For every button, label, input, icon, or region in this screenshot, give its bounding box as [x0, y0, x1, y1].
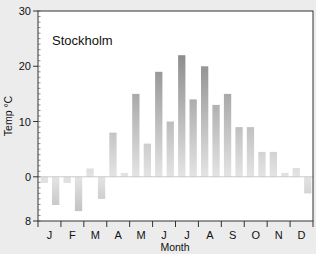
x-tick-label: M	[137, 229, 146, 241]
annotation-label: Stockholm	[52, 33, 113, 48]
bar	[293, 168, 300, 177]
bar	[212, 105, 219, 177]
bar	[86, 169, 93, 177]
x-tick-label: J	[161, 229, 167, 241]
x-tick-label: J	[184, 229, 190, 241]
bar	[281, 173, 288, 177]
bar	[52, 177, 59, 205]
bar	[109, 133, 116, 177]
y-tick-label: 10	[19, 116, 31, 128]
bar	[201, 66, 208, 177]
x-tick-label: F	[69, 229, 76, 241]
x-axis: JFMAMJJASOND	[38, 221, 313, 241]
bar	[258, 152, 265, 177]
y-tick-label: 0	[25, 171, 31, 183]
y-tick-label: 20	[19, 60, 31, 72]
x-tick-label: M	[91, 229, 100, 241]
x-tick-label: N	[275, 229, 283, 241]
bar	[121, 173, 128, 177]
bar	[167, 122, 174, 177]
x-tick-label: O	[251, 229, 260, 241]
x-tick-label: J	[47, 229, 53, 241]
bar	[224, 94, 231, 177]
chart: 30201008 JFMAMJJASOND Stockholm Month Te…	[0, 0, 316, 254]
y-axis: 30201008	[19, 5, 41, 227]
bar	[247, 127, 254, 177]
bar	[235, 127, 242, 177]
x-tick-label: A	[115, 229, 123, 241]
bar	[41, 177, 48, 183]
x-axis-title: Month	[160, 241, 189, 253]
y-tick-label: 8	[25, 215, 31, 227]
bar	[64, 177, 71, 183]
bar	[132, 94, 139, 177]
y-axis-title: Temp °C	[2, 95, 14, 136]
bar	[178, 55, 185, 177]
bar	[75, 177, 82, 211]
bar	[144, 144, 151, 177]
bar	[155, 72, 162, 177]
x-tick-label: S	[229, 229, 236, 241]
x-tick-label: A	[206, 229, 214, 241]
x-tick-label: D	[298, 229, 306, 241]
bar	[270, 152, 277, 177]
bar	[98, 177, 105, 199]
bar	[304, 177, 311, 194]
y-tick-label: 30	[19, 5, 31, 17]
bar	[190, 99, 197, 176]
